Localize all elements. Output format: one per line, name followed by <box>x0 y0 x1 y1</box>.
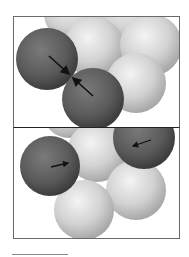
sphere-cluster-separated <box>14 128 180 239</box>
footnote-rule <box>12 254 68 255</box>
panel-separated <box>13 127 180 239</box>
light-sphere <box>106 160 166 220</box>
dark-sphere <box>62 68 124 128</box>
dark-sphere <box>20 136 80 196</box>
sphere-packing-figure <box>0 0 189 257</box>
sphere-cluster-contact <box>14 17 180 128</box>
panel-contact <box>13 16 180 128</box>
